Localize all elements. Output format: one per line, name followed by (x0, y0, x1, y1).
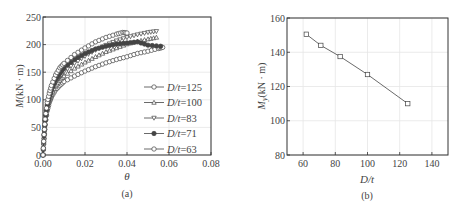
x-tick-label: 120 (392, 158, 407, 169)
legend-label: D/t=100 (166, 97, 202, 108)
y-tick-label: 100 (270, 115, 285, 126)
figure: 0.000.020.040.060.08050100150200250D/t=1… (0, 0, 460, 209)
y-tick-label: 160 (270, 13, 285, 24)
y-tick-label: 100 (26, 94, 41, 105)
y-axis-label: M(kN · m) (14, 64, 26, 108)
caption-b: (b) (361, 190, 373, 202)
series-my (304, 32, 410, 106)
y-tick-label: 140 (270, 47, 285, 58)
x-axis-label: θ (124, 170, 130, 182)
x-tick-label: 60 (298, 158, 308, 169)
caption-a: (a) (121, 188, 132, 200)
x-tick-label: 140 (424, 158, 439, 169)
chart-panel-b: 608010012014080100120140160D/tMy(kN · m)… (256, 13, 448, 203)
x-tick-label: 80 (330, 158, 340, 169)
legend-label: D/t=83 (166, 113, 197, 124)
x-tick-label: 0.06 (160, 158, 178, 169)
legend-label: D/t=125 (166, 82, 202, 93)
legend-label: D/t=63 (166, 144, 197, 155)
chart-panel-a: 0.000.020.040.060.08050100150200250D/t=1… (14, 12, 220, 201)
legend: D/t=125D/t=100D/t=83D/t=71D/t=63 (144, 82, 202, 155)
x-tick-label: 0.08 (202, 158, 220, 169)
y-tick-label: 80 (275, 150, 285, 161)
y-tick-label: 150 (26, 67, 41, 78)
y-tick-label: 120 (270, 81, 285, 92)
legend-label: D/t=71 (166, 128, 197, 139)
y-tick-label: 200 (26, 39, 41, 50)
x-tick-label: 0.04 (118, 158, 136, 169)
y-tick-label: 250 (26, 12, 41, 23)
x-axis-label: D/t (359, 173, 375, 185)
y-tick-label: 0 (36, 150, 41, 161)
y-axis-label: My(kN · m) (256, 63, 269, 111)
series-d-t-125 (41, 45, 165, 157)
series-d-t-71 (41, 40, 163, 158)
x-tick-label: 100 (360, 158, 375, 169)
y-tick-label: 50 (31, 122, 41, 133)
x-tick-label: 0.02 (76, 158, 94, 169)
